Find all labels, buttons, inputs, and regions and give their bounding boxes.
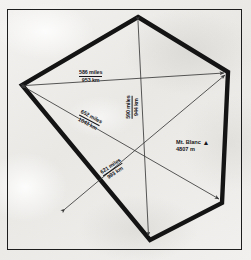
- label-span-horizontal: 586 miles 953 km: [79, 69, 102, 83]
- span-arrow-vertical: [138, 21, 149, 236]
- peak-name: Mt. Blanc: [176, 139, 201, 145]
- label-vertical-miles: 590 miles: [125, 95, 133, 118]
- label-span-vertical: 590 miles 944 km: [125, 95, 139, 118]
- label-horizontal-miles: 586 miles: [79, 69, 102, 77]
- peak-elevation: 4807 m: [176, 146, 209, 153]
- pentagon-diagram: [0, 0, 251, 260]
- pentagon-outline: [22, 17, 228, 240]
- peak-annotation: Mt. Blanc ▲ 4807 m: [176, 139, 209, 153]
- figure-page: 586 miles 953 km 590 miles 944 km 652 mi…: [0, 0, 251, 260]
- mountain-triangle-icon: ▲: [202, 139, 209, 146]
- span-arrow-horizontal: [25, 73, 224, 86]
- label-horizontal-km: 953 km: [79, 77, 102, 84]
- label-vertical-km: 944 km: [132, 95, 139, 118]
